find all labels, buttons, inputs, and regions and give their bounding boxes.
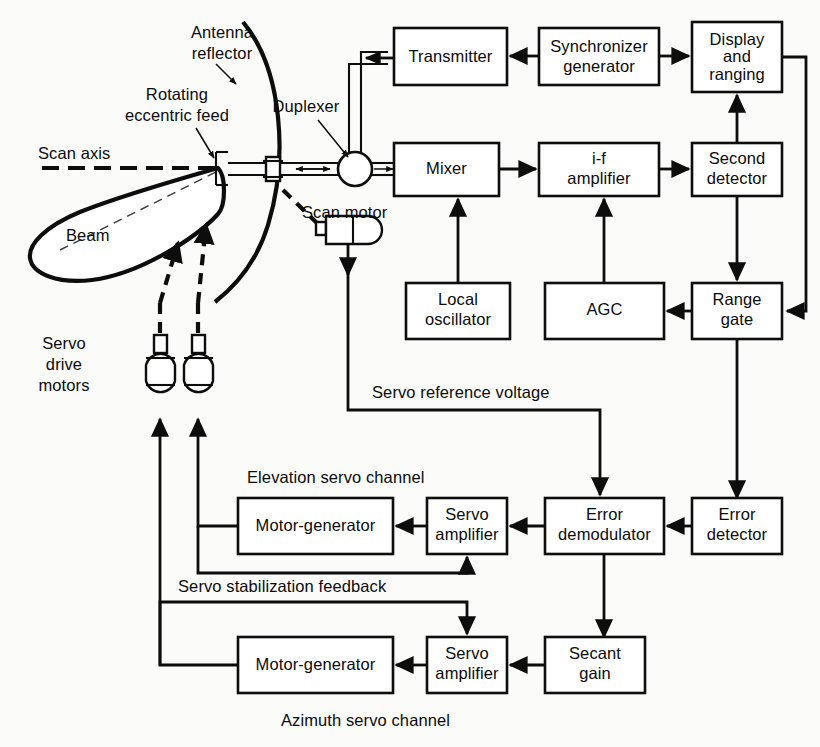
block-mixer-label: Mixer [426, 159, 467, 177]
motor-capsule-icon [146, 354, 175, 392]
block-synchronizer-generator-label-2: generator [563, 57, 635, 75]
annotation-rotating-feed-line2: eccentric feed [125, 106, 229, 124]
servo-motor-right-shaft [192, 335, 205, 353]
annotation-antenna-reflector-line2: reflector [192, 44, 253, 62]
annotation-elevation-servo-channel: Elevation servo channel [247, 468, 425, 486]
annotation-servo-drive-motors-line3: motors [38, 376, 89, 394]
block-servo-amplifier-azimuth-label-2: amplifier [435, 664, 499, 682]
block-display-and-ranging-label-3: ranging [709, 65, 765, 83]
block-display-and-ranging-label-1: Display [710, 30, 765, 48]
block-local-oscillator-label-1: Local [438, 290, 478, 308]
annotation-rotating-feed-line1: Rotating [146, 85, 208, 103]
annotation-servo-stabilization-feedback: Servo stabilization feedback [178, 577, 387, 595]
annotation-servo-drive-motors-line2: drive [46, 355, 82, 373]
block-second-detector-label-2: detector [707, 169, 768, 187]
radar-block-diagram: Transmitter Synchronizer generator Displ… [0, 0, 820, 747]
block-range-gate-label-2: gate [721, 310, 754, 328]
block-secant-gain-label-1: Secant [569, 644, 621, 662]
annotation-duplexer: Duplexer [273, 97, 340, 115]
block-error-demodulator-label-1: Error [586, 505, 624, 523]
duplexer-circle-icon [338, 152, 372, 186]
block-range-gate-label-1: Range [712, 290, 761, 308]
motor-capsule-icon [184, 354, 213, 392]
annotation-scan-axis: Scan axis [38, 144, 110, 162]
annotation-scan-motor: Scan motor [302, 203, 388, 221]
block-error-demodulator-label-2: demodulator [558, 525, 651, 543]
diagram-canvas: Transmitter Synchronizer generator Displ… [0, 0, 820, 747]
annotation-servo-reference-voltage: Servo reference voltage [372, 383, 549, 401]
annotation-servo-drive-motors-line1: Servo [42, 334, 86, 352]
block-motor-generator-elevation-label: Motor-generator [256, 516, 376, 534]
block-motor-generator-azimuth-label: Motor-generator [256, 655, 376, 673]
block-display-and-ranging-label-2: and [723, 47, 751, 65]
servo-motor-left-shaft [154, 335, 167, 353]
scan-motor-shaft [316, 222, 326, 235]
block-secant-gain-label-2: gain [579, 664, 611, 682]
block-servo-amplifier-elevation-label-1: Servo [445, 505, 489, 523]
block-error-detector-label-1: Error [718, 505, 756, 523]
annotation-antenna-reflector-line1: Antenna [191, 23, 254, 41]
block-error-detector-label-2: detector [707, 525, 768, 543]
block-second-detector-label-1: Second [709, 149, 766, 167]
block-synchronizer-generator-label-1: Synchronizer [550, 37, 648, 55]
annotation-beam: Beam [66, 226, 110, 244]
block-if-amplifier-label-2: amplifier [567, 169, 631, 187]
canvas-background [0, 0, 820, 747]
annotation-azimuth-servo-channel: Azimuth servo channel [281, 711, 450, 729]
block-local-oscillator-label-2: oscillator [425, 310, 492, 328]
block-agc-label: AGC [586, 300, 622, 318]
block-servo-amplifier-azimuth-label-1: Servo [445, 644, 489, 662]
block-servo-amplifier-elevation-label-2: amplifier [435, 525, 499, 543]
block-transmitter-label: Transmitter [409, 47, 493, 65]
block-if-amplifier-label-1: i-f [592, 149, 606, 167]
